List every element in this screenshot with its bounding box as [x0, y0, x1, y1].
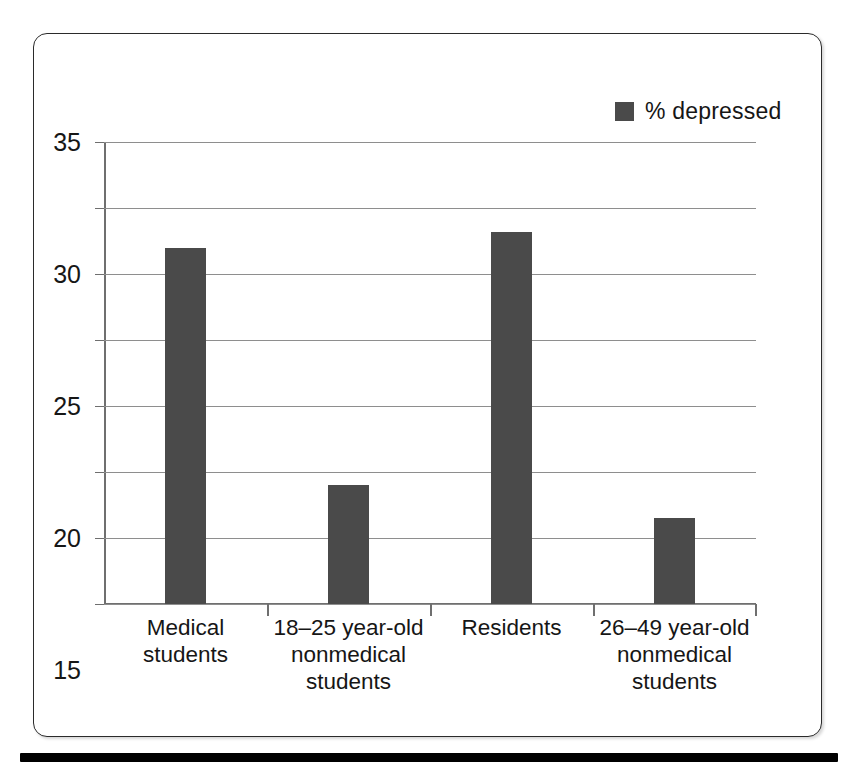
plot-area: 05101520253035 — [104, 142, 756, 604]
x-axis-label-line: Medical — [104, 614, 267, 641]
y-tick-mark-35: 35 — [95, 142, 104, 143]
x-axis-label-0: Medicalstudents — [104, 614, 267, 668]
bar-1 — [328, 485, 369, 604]
y-tick-label-20: 20 — [53, 524, 81, 553]
bar-0 — [165, 248, 206, 604]
y-tick-mark-20: 20 — [95, 340, 104, 341]
y-tick-label-25: 25 — [53, 392, 81, 421]
figure-container: % depressed 05101520253035 Medicalstuden… — [0, 0, 855, 769]
y-tick-label-15: 15 — [53, 656, 81, 685]
gridline-30 — [104, 208, 756, 209]
y-tick-mark-30: 30 — [95, 208, 104, 209]
x-axis-label-2: Residents — [430, 614, 593, 641]
bar-3 — [654, 518, 695, 604]
y-tick-mark-25: 25 — [95, 274, 104, 275]
y-tick-label-35: 35 — [53, 128, 81, 157]
legend-label-depressed: % depressed — [645, 98, 781, 125]
x-axis-label-line: nonmedical — [593, 641, 756, 668]
x-axis-label-line: students — [267, 668, 430, 695]
y-tick-mark-0: 0 — [95, 604, 104, 605]
chart-legend: % depressed — [615, 98, 781, 125]
y-tick-mark-5: 5 — [95, 538, 104, 539]
gridline-35 — [104, 142, 756, 143]
x-axis-label-1: 18–25 year-oldnonmedicalstudents — [267, 614, 430, 695]
y-tick-mark-10: 10 — [95, 472, 104, 473]
x-axis-label-line: students — [104, 641, 267, 668]
x-axis-label-line: nonmedical — [267, 641, 430, 668]
bar-2 — [491, 232, 532, 604]
bottom-rule — [20, 753, 838, 762]
x-axis-label-line: 26–49 year-old — [593, 614, 756, 641]
x-axis-label-line: students — [593, 668, 756, 695]
x-axis-label-line: Residents — [430, 614, 593, 641]
y-tick-label-30: 30 — [53, 260, 81, 289]
x-axis-labels: Medicalstudents18–25 year-oldnonmedicals… — [104, 614, 756, 714]
legend-swatch-depressed — [615, 102, 634, 121]
x-axis-label-3: 26–49 year-oldnonmedicalstudents — [593, 614, 756, 695]
x-axis-label-line: 18–25 year-old — [267, 614, 430, 641]
y-tick-mark-15: 15 — [95, 406, 104, 407]
y-axis-line — [104, 142, 106, 604]
